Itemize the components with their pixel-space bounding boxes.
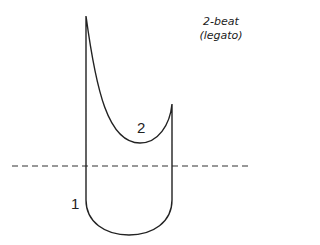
beat-path <box>86 16 172 235</box>
pattern-title-line2: (legato) <box>186 29 256 43</box>
pattern-title: 2-beat (legato) <box>186 15 256 43</box>
pattern-title-line1: 2-beat <box>186 15 256 29</box>
beat-label-2: 2 <box>137 120 145 135</box>
beat-label-1: 1 <box>71 196 79 211</box>
